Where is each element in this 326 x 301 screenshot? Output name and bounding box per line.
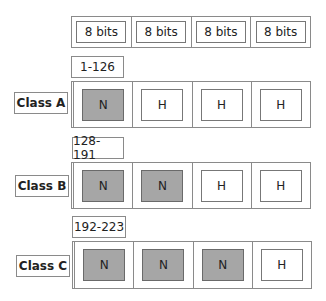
network-octet: N [142,249,184,281]
bits-label: 8 bits [136,21,186,43]
octet-header-row: 8 bits 8 bits 8 bits 8 bits [71,16,311,48]
octet-cell: N [133,163,192,208]
bits-label: 8 bits [256,21,306,43]
host-octet: H [260,89,302,121]
network-octet: N [82,89,124,121]
octet-cell: H [193,82,252,127]
octet-cell: N [75,242,134,288]
octet-cell: H [252,82,310,127]
class-c-row: N N N H [72,241,312,289]
class-c-range: 192-223 [72,216,126,238]
class-b-range: 128-191 [72,137,124,159]
octet-cell: N [74,163,133,208]
octet-cell: N [134,242,193,288]
octet-header-cell: 8 bits [132,17,192,47]
octet-cell: N [74,82,133,127]
class-c-label: Class C [16,255,70,277]
host-octet: H [201,89,243,121]
octet-cell: N [194,242,253,288]
host-octet: H [201,170,243,202]
host-octet: H [260,170,302,202]
octet-cell: H [133,82,192,127]
class-a-row: N H H H [71,81,311,128]
host-octet: H [141,89,183,121]
octet-cell: H [253,242,311,288]
octet-cell: H [193,163,252,208]
host-octet: H [261,249,303,281]
network-octet: N [83,249,125,281]
network-octet: N [202,249,244,281]
class-b-label: Class B [15,175,69,197]
network-octet: N [141,170,183,202]
octet-header-cell: 8 bits [192,17,252,47]
octet-cell: H [252,163,310,208]
bits-label: 8 bits [76,21,126,43]
bits-label: 8 bits [196,21,246,43]
network-octet: N [82,170,124,202]
class-a-range: 1-126 [71,56,124,78]
octet-header-cell: 8 bits [72,17,132,47]
class-a-label: Class A [14,92,68,114]
class-b-row: N N H H [71,162,311,209]
octet-header-cell: 8 bits [251,17,310,47]
